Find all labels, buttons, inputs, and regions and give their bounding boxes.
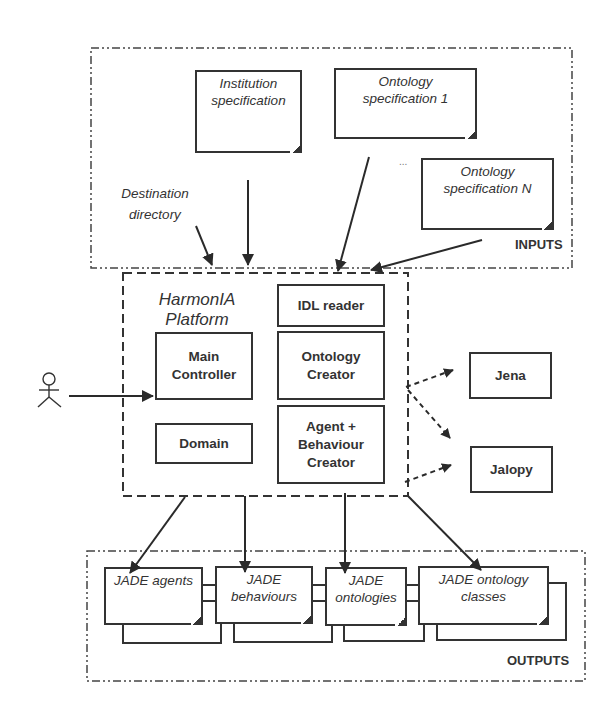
doc-line: ontologies [327,589,405,606]
arrow-ontology1-to-platform [338,157,369,271]
agent-behaviour-creator-box: Agent + Behaviour Creator [277,405,385,484]
doc-line: specification 1 [336,90,475,107]
actor-icon [38,373,61,407]
component-label: Main [189,348,220,366]
page-fold-icon [395,618,407,626]
page-fold-icon [542,222,554,230]
doc-line: behaviours [217,588,311,605]
page-fold-icon [191,617,203,625]
outputs-label: OUTPUTS [507,653,569,668]
doc-line: JADE [217,571,311,588]
output-doc-jade-ontology-classes: JADE ontology classes [418,566,549,625]
platform-title-line: HarmonIA [148,290,246,310]
page-fold-icon [465,131,477,139]
arrow-ontologyN-to-platform [371,240,482,270]
ellipsis-label: ... [399,156,407,167]
output-doc-jade-ontologies: JADE ontologies [325,567,407,626]
idl-reader-box: IDL reader [277,284,385,327]
page-fold-icon [301,616,313,624]
doc-line: JADE ontology [420,571,547,588]
label-line: directory [112,204,198,225]
page-fold-icon [537,617,549,625]
output-doc-jade-behaviours: JADE behaviours [215,566,313,624]
input-doc-ontology-spec-1: Ontology specification 1 [334,68,477,139]
input-doc-ontology-spec-n: Ontology specification N [421,158,554,230]
inputs-label: INPUTS [515,237,563,252]
doc-line: JADE agents [106,572,201,589]
page-fold-icon [290,145,302,153]
platform-title-line: Platform [148,310,246,330]
component-label: Creator [307,366,355,384]
jalopy-box: Jalopy [470,446,553,493]
doc-line: specification [197,92,300,109]
arrow-platform-to-jade-agents [130,497,185,573]
destination-directory-label: Destination directory [112,183,198,225]
ontology-creator-box: Ontology Creator [277,331,385,400]
component-label: Domain [179,435,229,453]
doc-line: classes [420,588,547,605]
component-label: Agent + [306,418,356,436]
domain-box: Domain [155,423,253,464]
component-label: IDL reader [298,297,365,315]
input-doc-institution-spec: Institution specification [195,70,302,153]
output-doc-jade-agents: JADE agents [104,567,203,625]
label-line: Destination [112,183,198,204]
platform-title: HarmonIA Platform [148,290,246,330]
dashed-arrow-agent-creator-to-jalopy [405,465,451,482]
doc-line: Institution [197,75,300,92]
doc-line: Ontology [336,73,475,90]
main-controller-box: Main Controller [155,332,253,400]
doc-line: Ontology [423,163,552,180]
arrow-destination-to-platform [196,226,212,265]
doc-line: JADE [327,572,405,589]
component-label: Creator [307,454,355,472]
component-label: Ontology [301,348,360,366]
component-label: Controller [172,366,237,384]
jena-box: Jena [469,352,552,399]
dashed-arrow-ontology-creator-to-jena [406,370,453,387]
component-label: Behaviour [298,436,364,454]
component-label: Jalopy [490,461,533,479]
doc-line: specification N [423,180,552,197]
arrow-platform-to-ontology-classes [408,496,481,570]
dashed-arrow-ontology-creator-to-jalopy [408,390,450,438]
component-label: Jena [495,367,526,385]
